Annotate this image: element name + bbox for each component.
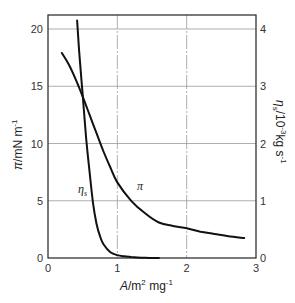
eta-s-curve <box>77 20 159 258</box>
y-left-tick-label: 10 <box>31 138 43 150</box>
x-tick-label: 2 <box>184 262 190 274</box>
chart: 05101520012340123 ηs π A/m2 mg-1 π/mN m-… <box>0 0 295 303</box>
y-left-tick-label: 15 <box>31 80 43 92</box>
y-left-tick-label: 5 <box>37 195 43 207</box>
y-axis-left-label: π/mN m-1 <box>10 119 25 170</box>
x-tick-label: 0 <box>45 262 51 274</box>
y-right-tick-label: 0 <box>260 252 266 264</box>
y-axis-right-label: ηs/10-3kg s-1 <box>271 100 288 164</box>
label-pi: π <box>137 179 144 193</box>
pi-curve <box>62 53 244 238</box>
y-right-tick-label: 1 <box>260 195 266 207</box>
x-axis-label: A/m2 mg-1 <box>119 278 173 293</box>
label-eta-s: ηs <box>78 182 87 198</box>
y-right-tick-label: 3 <box>260 80 266 92</box>
x-tick-label: 1 <box>114 262 120 274</box>
curves <box>62 20 244 258</box>
y-right-tick-label: 4 <box>260 23 266 35</box>
x-tick-label: 3 <box>253 262 259 274</box>
y-right-tick-label: 2 <box>260 138 266 150</box>
y-left-tick-label: 0 <box>37 252 43 264</box>
y-left-tick-label: 20 <box>31 23 43 35</box>
